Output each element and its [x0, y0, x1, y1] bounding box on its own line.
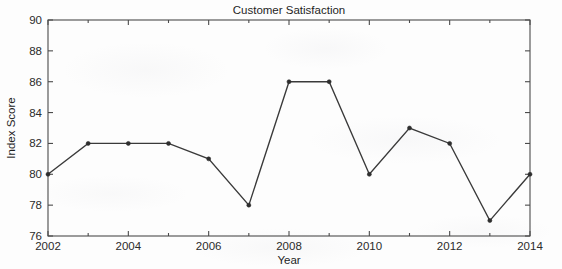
- data-point-marker: [126, 141, 130, 145]
- tick-marks: [48, 20, 530, 236]
- y-axis-tick-labels: 7678808284868890: [29, 14, 42, 242]
- data-point-marker: [287, 80, 291, 84]
- data-point-marker: [488, 219, 492, 223]
- y-tick-label: 80: [29, 168, 42, 180]
- chart-title: Customer Satisfaction: [233, 4, 346, 16]
- chart-screenshot: 7678808284868890 20022004200620082010201…: [0, 0, 562, 269]
- x-tick-label: 2004: [116, 240, 142, 252]
- x-axis-tick-labels: 2002200420062008201020122014: [35, 240, 543, 252]
- data-point-markers: [46, 80, 532, 223]
- axes-box: [48, 20, 530, 236]
- y-tick-label: 84: [29, 107, 42, 119]
- data-point-marker: [207, 157, 211, 161]
- y-tick-label: 78: [29, 199, 42, 211]
- data-series-line: [48, 82, 530, 221]
- y-axis-title: Index Score: [5, 97, 17, 158]
- x-tick-label: 2014: [517, 240, 543, 252]
- data-point-marker: [367, 172, 371, 176]
- y-tick-label: 88: [29, 45, 42, 57]
- x-tick-label: 2008: [276, 240, 302, 252]
- data-point-marker: [167, 141, 171, 145]
- data-point-marker: [528, 172, 532, 176]
- y-tick-label: 82: [29, 137, 42, 149]
- data-point-marker: [408, 126, 412, 130]
- chart-canvas: 7678808284868890 20022004200620082010201…: [0, 0, 562, 269]
- y-tick-label: 90: [29, 14, 42, 26]
- x-tick-label: 2012: [437, 240, 463, 252]
- data-point-marker: [327, 80, 331, 84]
- customer-satisfaction-line-chart: 7678808284868890 20022004200620082010201…: [0, 0, 562, 269]
- data-point-marker: [247, 203, 251, 207]
- x-tick-label: 2006: [196, 240, 222, 252]
- x-tick-label: 2002: [35, 240, 61, 252]
- x-axis-title: Year: [277, 254, 300, 266]
- data-point-marker: [86, 141, 90, 145]
- y-tick-label: 86: [29, 76, 42, 88]
- data-point-marker: [448, 141, 452, 145]
- data-point-marker: [46, 172, 50, 176]
- x-tick-label: 2010: [357, 240, 383, 252]
